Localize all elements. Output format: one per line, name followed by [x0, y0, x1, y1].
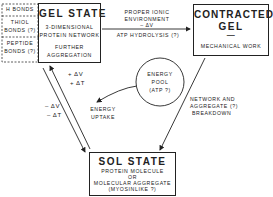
label-ionic: PROPER IONIC: [112, 9, 182, 16]
gel-state-box: GEL STATE 3-DIMENSIONAL PROTEIN NETWORK …: [38, 3, 101, 63]
contracted-dash: —: [194, 30, 268, 39]
label-minus-dv: – ΔV: [112, 22, 182, 29]
energy-pool-line2: POOL: [140, 79, 180, 86]
bond-peptide: PEPTIDE: [3, 40, 37, 47]
label-atp-hydrolysis: ATP HYDROLYSIS (?): [108, 32, 188, 39]
breakdown-line2: AGGREGATE (?): [190, 103, 238, 110]
energy-pool-line3: (ATP ?): [140, 87, 180, 94]
gel-state-title: GEL STATE: [39, 8, 100, 19]
gel-state-line1: 3-DIMENSIONAL: [39, 24, 100, 31]
energy-uptake-line2: UPTAKE: [85, 114, 121, 121]
contracted-line1: MECHANICAL WORK: [194, 43, 268, 50]
breakdown-line3: BREAKDOWN: [192, 110, 231, 117]
energy-pool-line1: ENERGY: [140, 71, 180, 78]
diagram: H BONDS THIOL BONDS (?) PEPTIDE BONDS (?…: [0, 0, 273, 197]
contracted-title-1: CONTRACTED: [194, 9, 268, 20]
bond-h: H BONDS: [3, 6, 37, 13]
arrow-energy-uptake: [97, 86, 137, 102]
label-plus-dt: + ΔT: [70, 80, 85, 87]
contracted-gel-box: CONTRACTED GEL — MECHANICAL WORK: [193, 4, 269, 56]
energy-uptake-line1: ENERGY: [85, 106, 121, 113]
label-minus-dv-left: – ΔV: [45, 103, 60, 110]
gel-state-line2: PROTEIN NETWORK: [39, 32, 100, 39]
label-plus-dv: + ΔV: [68, 71, 83, 78]
bond-thiol: THIOL: [3, 19, 37, 26]
breakdown-line1: NETWORK AND: [190, 96, 235, 103]
gel-state-line3: FURTHER: [39, 44, 100, 51]
label-minus-dt: – ΔT: [47, 112, 62, 119]
sol-state-line4: (MYOSINLIKE ?): [90, 186, 175, 193]
sol-state-title: SOL STATE: [90, 156, 175, 167]
bond-peptide-2: BONDS (?): [3, 48, 37, 55]
gel-state-line4: AGGREGATION: [39, 52, 100, 59]
sol-state-box: SOL STATE PROTEIN MOLECULE OR MOLECULAR …: [89, 152, 176, 196]
bond-thiol-2: BONDS (?): [3, 27, 37, 34]
